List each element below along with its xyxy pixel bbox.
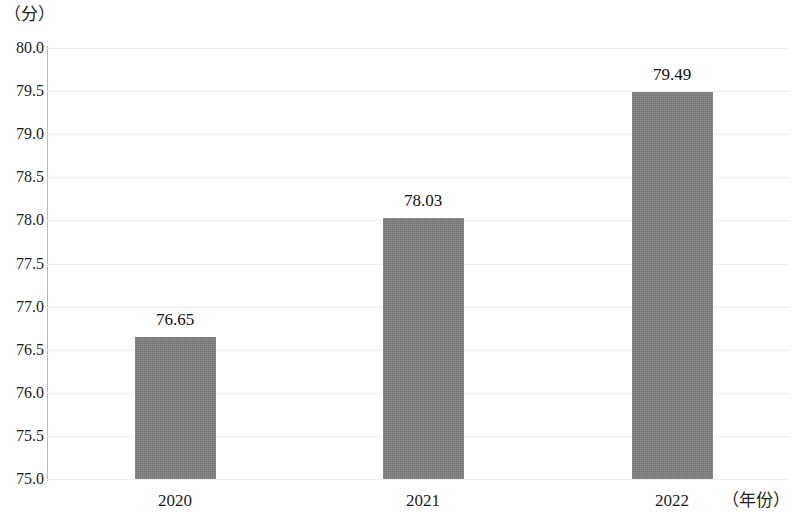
x-axis-tick-label-2020: 2020 bbox=[115, 492, 235, 509]
y-axis-tick-labels: 80.079.579.078.578.077.577.076.576.075.5… bbox=[0, 0, 44, 521]
y-axis-tick-label: 75.5 bbox=[0, 428, 44, 444]
bar-2022 bbox=[632, 92, 713, 479]
y-axis-tick-label: 76.0 bbox=[0, 385, 44, 401]
x-axis-tick-label-2022: 2022 bbox=[612, 492, 732, 509]
y-axis-tick-label: 76.5 bbox=[0, 342, 44, 358]
y-axis-tick-label: 78.0 bbox=[0, 212, 44, 228]
y-axis-tick-label: 79.5 bbox=[0, 83, 44, 99]
bar-value-label-2020: 76.65 bbox=[115, 311, 235, 328]
y-axis-tick-label: 77.0 bbox=[0, 299, 44, 315]
bar-2020 bbox=[135, 337, 216, 479]
bar-2021 bbox=[383, 218, 464, 479]
x-axis-tick-label-2021: 2021 bbox=[363, 492, 483, 509]
y-axis-tick-label: 79.0 bbox=[0, 126, 44, 142]
gridline bbox=[47, 479, 790, 480]
plot-area bbox=[47, 48, 790, 479]
bar-value-label-2022: 79.49 bbox=[612, 66, 732, 83]
y-axis-tick-label: 77.5 bbox=[0, 256, 44, 272]
y-axis-tick-label: 80.0 bbox=[0, 40, 44, 56]
y-axis-tick-label: 78.5 bbox=[0, 169, 44, 185]
bar-value-label-2021: 78.03 bbox=[363, 192, 483, 209]
y-axis-tick-label: 75.0 bbox=[0, 471, 44, 487]
x-axis-unit-label: （年份） bbox=[722, 492, 790, 509]
bar-chart: （分） 80.079.579.078.578.077.577.076.576.0… bbox=[0, 0, 796, 521]
gridline bbox=[47, 48, 790, 49]
